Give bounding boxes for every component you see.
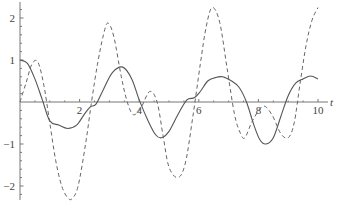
- dashed-line-series: [20, 7, 318, 199]
- x-axis-label: t: [330, 96, 334, 108]
- y-tick-label: −2: [3, 180, 15, 192]
- x-tick-label: 2: [77, 104, 83, 116]
- x-tick-label: 6: [196, 104, 202, 116]
- y-tick-label: 1: [10, 54, 16, 66]
- x-axis-tick-labels: 246810: [77, 104, 324, 116]
- y-axis-tick-labels: 21−1−2: [3, 12, 15, 192]
- plot-series: [20, 7, 318, 199]
- y-tick-label: −1: [3, 138, 15, 150]
- x-tick-label: 10: [313, 104, 325, 116]
- y-tick-label: 2: [10, 12, 16, 24]
- chart-plot: 246810 t 21−1−2: [0, 0, 338, 207]
